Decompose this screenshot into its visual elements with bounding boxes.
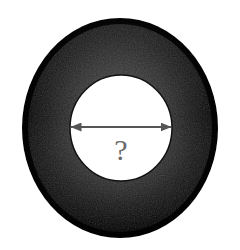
annulus-diagram: ? [0, 0, 240, 250]
figure-canvas: ? [0, 0, 240, 250]
unknown-diameter-label: ? [114, 133, 127, 166]
